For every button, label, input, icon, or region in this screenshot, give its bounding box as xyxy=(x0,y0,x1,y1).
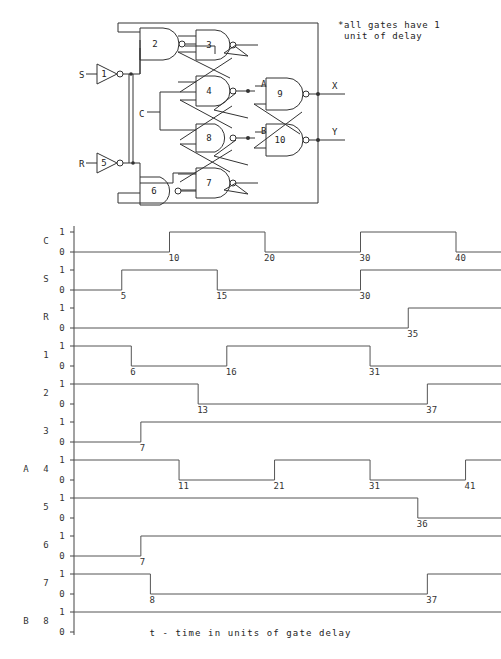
level-label-low: 0 xyxy=(59,551,64,561)
signal-label-g3: 3 xyxy=(43,426,48,436)
waveform-row-g2: 1021337 xyxy=(43,379,501,415)
gate-1-label: 1 xyxy=(101,69,106,79)
level-label-low: 0 xyxy=(59,475,64,485)
signal-label-g5: 5 xyxy=(43,502,48,512)
waveform-row-g3: 1037 xyxy=(43,417,501,453)
gate-8-label: 8 xyxy=(206,133,211,143)
waveform-row-C: 10C10203040 xyxy=(43,227,501,263)
gate-2-label: 2 xyxy=(152,39,157,49)
time-label-C-10: 10 xyxy=(169,253,180,263)
time-label-g5-36: 36 xyxy=(417,519,428,529)
level-label-high: 1 xyxy=(59,493,64,503)
level-label-high: 1 xyxy=(59,227,64,237)
time-label-R-35: 35 xyxy=(407,329,418,339)
signal-label-S: S xyxy=(43,274,48,284)
signal-label-g7: 7 xyxy=(43,578,48,588)
trace-C xyxy=(74,232,501,252)
output-label-X: X xyxy=(332,81,338,91)
time-label-g3-7: 7 xyxy=(140,443,145,453)
waveform-row-g7: 107837 xyxy=(43,569,501,605)
time-label-g1-31: 31 xyxy=(369,367,380,377)
trace-g4 xyxy=(74,460,501,480)
trace-g2 xyxy=(74,384,501,404)
wire-g1-to-g2 xyxy=(131,40,140,74)
circuit-delay-note: *all gates have 1 unit of delay xyxy=(338,20,440,42)
time-label-g1-6: 6 xyxy=(130,367,135,377)
timing-diagram: 10C1020304010S5153010R351016163110213371… xyxy=(0,215,501,635)
time-label-S-5: 5 xyxy=(121,291,126,301)
time-label-C-20: 20 xyxy=(264,253,275,263)
waveform-row-g4: 104A11213141 xyxy=(23,455,501,491)
signal-label-R: R xyxy=(43,312,49,322)
wire-outer-frame xyxy=(118,23,318,203)
wire-g5-out xyxy=(123,163,140,177)
level-label-low: 0 xyxy=(59,285,64,295)
trace-g7 xyxy=(74,574,501,594)
time-label-C-30: 30 xyxy=(360,253,371,263)
level-label-low: 0 xyxy=(59,589,64,599)
gate-1-body xyxy=(97,64,117,84)
trace-S xyxy=(74,270,501,290)
gate-10-label: 10 xyxy=(275,135,286,145)
waveform-row-g1: 10161631 xyxy=(43,341,501,377)
level-label-high: 1 xyxy=(59,569,64,579)
input-label-R: R xyxy=(79,159,85,169)
gate-2-body xyxy=(140,28,179,60)
time-label-g7-37: 37 xyxy=(426,595,437,605)
gate-9-body xyxy=(266,78,303,110)
level-label-high: 1 xyxy=(59,303,64,313)
waveform-row-g6: 1067 xyxy=(43,531,501,567)
junction-node-A xyxy=(246,89,250,93)
level-label-high: 1 xyxy=(59,379,64,389)
level-label-high: 1 xyxy=(59,265,64,275)
gate-6-bubble xyxy=(175,188,181,194)
junction-Y xyxy=(316,138,320,142)
figure-root: S 1 R 5 2 3 xyxy=(0,0,501,659)
gate-9-label: 9 xyxy=(277,89,282,99)
time-label-g1-16: 16 xyxy=(226,367,237,377)
gate-7-body xyxy=(196,168,230,198)
time-label-g4-31: 31 xyxy=(369,481,380,491)
wire-g8-cross-down xyxy=(214,140,248,165)
signal-label-g8: 8 xyxy=(43,616,48,626)
gate-1-bubble xyxy=(117,71,123,77)
time-label-g2-37: 37 xyxy=(426,405,437,415)
junction-g5-out xyxy=(131,161,135,165)
level-label-low: 0 xyxy=(59,513,64,523)
gate-2-bubble xyxy=(179,41,185,47)
gate-5-bubble xyxy=(117,160,123,166)
signal-label-g4: 4 xyxy=(43,464,48,474)
level-label-low: 0 xyxy=(59,361,64,371)
wire-g4-in-C xyxy=(160,92,196,112)
gate-9-bubble xyxy=(303,91,309,97)
time-label-S-15: 15 xyxy=(216,291,227,301)
signal-alias-g4: A xyxy=(23,464,29,474)
wire-frame-to-g6-in xyxy=(118,193,140,203)
gate-5-label: 5 xyxy=(101,158,106,168)
trace-g1 xyxy=(74,346,501,366)
input-label-C: C xyxy=(139,109,144,119)
signal-alias-g8: B xyxy=(23,616,28,626)
level-label-high: 1 xyxy=(59,455,64,465)
time-label-S-30: 30 xyxy=(360,291,371,301)
trace-g3 xyxy=(74,422,501,442)
gate-5-body xyxy=(97,153,117,173)
signal-label-g6: 6 xyxy=(43,540,48,550)
level-label-low: 0 xyxy=(59,437,64,447)
time-label-g4-21: 21 xyxy=(274,481,285,491)
level-label-low: 0 xyxy=(59,247,64,257)
gate-3-body xyxy=(196,30,230,60)
trace-g6 xyxy=(74,536,501,556)
signal-label-g2: 2 xyxy=(43,388,48,398)
gate-10-bubble xyxy=(303,137,309,143)
waveform-row-S: 10S51530 xyxy=(43,265,501,301)
level-label-low: 0 xyxy=(59,323,64,333)
gate-4-label: 4 xyxy=(206,86,211,96)
trace-R xyxy=(74,308,501,328)
level-label-high: 1 xyxy=(59,417,64,427)
level-label-low: 0 xyxy=(59,399,64,409)
waveform-row-R: 10R35 xyxy=(43,303,501,339)
time-label-g2-13: 13 xyxy=(197,405,208,415)
wire-frame-to-g2-in xyxy=(118,23,140,32)
figure-caption: t - time in units of gate delay xyxy=(0,628,501,638)
